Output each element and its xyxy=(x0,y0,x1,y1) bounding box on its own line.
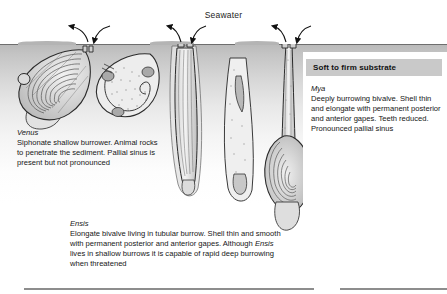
panel-divider-right xyxy=(340,288,447,290)
venus-species-name: Venus xyxy=(17,128,165,138)
mya-caption: Mya Deeply burrowing bivalve. Shell thin… xyxy=(311,84,443,134)
ensis-species-name: Ensis xyxy=(70,219,282,229)
substrate-header-label: Soft to firm substrate xyxy=(306,59,442,72)
ensis-caption: Ensis Elongate bivalve living in tubular… xyxy=(70,219,282,269)
mya-caption-text: Deeply burrowing bivalve. Shell thin and… xyxy=(311,94,443,134)
ensis-caption-part-2: lives in shallow burrows it is capable o… xyxy=(70,249,274,268)
venus-caption-text: Siphonate shallow burrower. Animal rocks… xyxy=(17,138,165,168)
mya-species-name: Mya xyxy=(311,84,443,94)
panel-divider-left xyxy=(24,288,314,290)
seawater-region xyxy=(0,0,447,44)
substrate-header: Soft to firm substrate xyxy=(306,59,442,76)
ensis-caption-text: Elongate bivalve living in tubular burro… xyxy=(70,229,282,269)
venus-interior-anatomy-illustration xyxy=(88,50,170,126)
ensis-species-inline: Ensis xyxy=(255,239,274,248)
ensis-shell-illustration xyxy=(166,44,212,204)
ensis-caption-part-1: Elongate bivalve living in tubular burro… xyxy=(70,229,281,248)
bivalve-burrowing-diagram: Seawater xyxy=(0,0,447,294)
ensis-burrow-section-illustration xyxy=(216,56,262,208)
venus-caption: Venus Siphonate shallow burrower. Animal… xyxy=(17,128,165,168)
seawater-label: Seawater xyxy=(0,10,447,20)
